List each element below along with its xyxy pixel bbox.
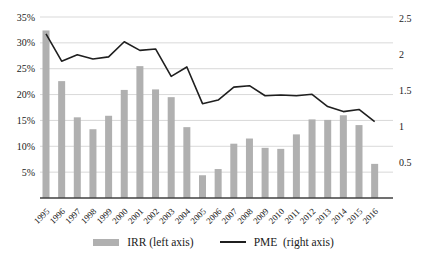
left-axis-tick-label: 25% — [17, 63, 35, 74]
left-axis-tick-label: 30% — [17, 37, 35, 48]
irr-bar — [340, 115, 347, 198]
x-axis-label: 2000 — [110, 206, 130, 226]
dual-axis-combo-chart: 5%10%15%20%25%30%35%0.511.522.5199519961… — [0, 0, 427, 236]
left-axis-tick-label: 5% — [22, 167, 35, 178]
irr-bar — [246, 139, 253, 198]
left-axis-tick-label: 20% — [17, 89, 35, 100]
irr-bar — [293, 134, 300, 198]
x-axis-label: 2010 — [267, 206, 287, 226]
irr-legend-label: IRR (left axis) — [127, 236, 193, 248]
irr-bar — [215, 169, 222, 198]
x-axis-label: 1996 — [48, 206, 68, 226]
chart-legend: IRR (left axis) PME (right axis) — [0, 236, 427, 248]
x-axis-label: 2007 — [220, 206, 240, 226]
irr-bar — [136, 66, 143, 198]
right-axis-tick-label: 0.5 — [399, 157, 412, 168]
irr-bar — [121, 90, 128, 198]
right-axis-tick-label: 1 — [399, 121, 404, 132]
irr-bar — [152, 89, 159, 198]
irr-bar — [199, 175, 206, 198]
x-axis-label: 2002 — [141, 206, 161, 226]
irr-bar — [168, 97, 175, 198]
pme-legend-label: PME (right axis) — [254, 236, 334, 248]
x-axis-label: 2011 — [283, 206, 302, 225]
irr-bar — [356, 125, 363, 198]
x-axis-label: 2004 — [173, 206, 193, 226]
irr-bar — [43, 30, 50, 198]
irr-bar — [262, 148, 269, 198]
x-axis-label: 2005 — [188, 206, 208, 226]
irr-bar — [183, 127, 190, 198]
right-axis-tick-label: 2.5 — [399, 13, 412, 24]
left-axis-tick-label: 15% — [17, 115, 35, 126]
left-axis-tick-label: 35% — [17, 12, 35, 23]
x-axis-label: 2012 — [298, 206, 318, 226]
x-axis-label: 1997 — [63, 206, 83, 226]
x-axis-label: 2015 — [345, 206, 365, 226]
irr-bar — [309, 119, 316, 198]
right-axis-tick-label: 1.5 — [399, 85, 412, 96]
irr-bar — [230, 144, 237, 198]
irr-bar — [89, 129, 96, 198]
irr-bar — [74, 117, 81, 198]
left-axis-tick-label: 10% — [17, 141, 35, 152]
irr-bar — [324, 120, 331, 198]
x-axis-label: 2009 — [251, 206, 271, 226]
x-axis-label: 1998 — [79, 206, 99, 226]
irr-legend-swatch — [93, 239, 119, 246]
right-axis-tick-label: 2 — [399, 49, 404, 60]
irr-bar — [277, 149, 284, 198]
x-axis-label: 1999 — [95, 206, 115, 226]
pme-legend-swatch — [220, 241, 246, 243]
x-axis-label: 2003 — [157, 206, 177, 226]
irr-bar — [371, 164, 378, 198]
x-axis-label: 2013 — [314, 206, 334, 226]
x-axis-label: 1995 — [32, 206, 52, 226]
x-axis-label: 2001 — [126, 206, 146, 226]
pme-line — [46, 34, 375, 122]
irr-bar — [105, 116, 112, 198]
chart-canvas: 5%10%15%20%25%30%35%0.511.522.5199519961… — [0, 0, 427, 257]
x-axis-label: 2008 — [235, 206, 255, 226]
irr-bar — [58, 81, 65, 198]
x-axis-label: 2006 — [204, 206, 224, 226]
x-axis-label: 2014 — [329, 206, 349, 226]
x-axis-label: 2016 — [361, 206, 381, 226]
